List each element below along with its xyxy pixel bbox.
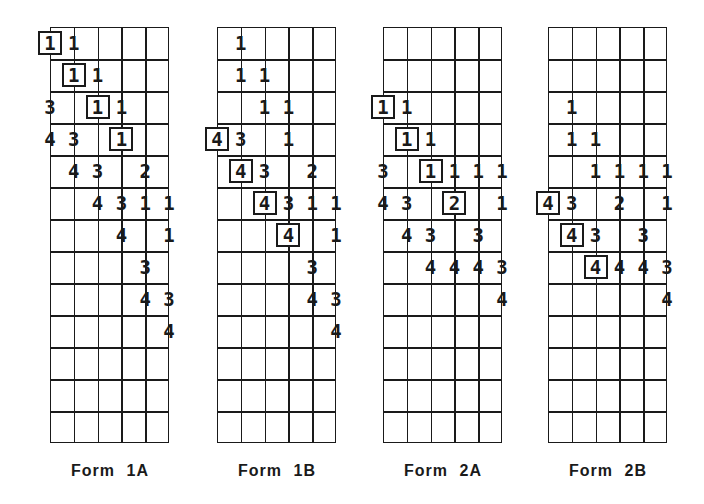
number: 4 [371,191,395,215]
number: 3 [38,95,62,119]
form-label: Form 1A [30,462,190,480]
boxed-number: 1 [395,127,419,151]
grid-row-line [549,251,666,253]
number: 3 [560,191,584,215]
boxed-number: 1 [62,63,86,87]
grid-row-line [218,379,335,381]
number: 1 [133,191,157,215]
number: 1 [324,223,348,247]
number: 1 [324,191,348,215]
grid-row-line [51,155,168,157]
number: 1 [229,31,253,55]
grid-row-line [384,155,501,157]
grid-row-line [384,283,501,285]
boxed-number: 2 [442,191,466,215]
number: 1 [419,127,443,151]
number: 4 [38,127,62,151]
number: 4 [109,223,133,247]
grid-row-line [549,155,666,157]
number: 1 [655,159,679,183]
number: 4 [419,255,443,279]
number: 3 [62,127,86,151]
grid-row-line [218,91,335,93]
number: 1 [109,95,133,119]
number: 4 [466,255,490,279]
grid-row-line [384,219,501,221]
grid-row-line [218,123,335,125]
number: 2 [607,191,631,215]
number: 3 [655,255,679,279]
boxed-number: 4 [560,223,584,247]
grid-row-line [218,347,335,349]
number: 1 [395,95,419,119]
number: 1 [560,127,584,151]
grid-row-line [384,59,501,61]
grid-row-line [218,219,335,221]
number: 1 [157,191,181,215]
grid-row-line [218,187,335,189]
grid-row-line [51,251,168,253]
number: 3 [109,191,133,215]
number: 1 [300,191,324,215]
grid-row-line [384,315,501,317]
number: 1 [490,159,514,183]
number: 3 [157,287,181,311]
number: 3 [229,127,253,151]
grid-row-line [549,219,666,221]
boxed-number: 4 [276,223,300,247]
grid-row-line [549,123,666,125]
grid-row-line [51,379,168,381]
grid-row-line [549,315,666,317]
number: 4 [300,287,324,311]
number: 1 [442,159,466,183]
grid-row-line [549,59,666,61]
number: 3 [419,223,443,247]
form-label: Form 2B [528,462,688,480]
number: 1 [86,63,110,87]
grid-row-line [384,411,501,413]
number: 1 [490,191,514,215]
grid-row-line [51,123,168,125]
number: 4 [324,319,348,343]
grid-row-line [218,251,335,253]
number: 1 [631,159,655,183]
form-label: Form 1B [197,462,357,480]
number: 3 [253,159,277,183]
grid-row-line [384,123,501,125]
grid-row-line [51,315,168,317]
number: 1 [276,95,300,119]
number: 4 [62,159,86,183]
grid-row-line [218,315,335,317]
number: 4 [86,191,110,215]
grid-row-line [549,187,666,189]
boxed-number: 1 [38,31,62,55]
number: 1 [584,127,608,151]
boxed-number: 4 [205,127,229,151]
number: 1 [560,95,584,119]
grid-row-line [51,91,168,93]
number: 4 [655,287,679,311]
grid-row-line [384,379,501,381]
grid-row-line [384,251,501,253]
number: 3 [395,191,419,215]
number: 3 [371,159,395,183]
grid-row-line [384,91,501,93]
form-label: Form 2A [363,462,523,480]
number: 2 [300,159,324,183]
number: 3 [490,255,514,279]
grid-row-line [51,411,168,413]
number: 4 [607,255,631,279]
grid-row-line [51,187,168,189]
boxed-number: 1 [419,159,443,183]
number: 3 [584,223,608,247]
grid-row-line [218,411,335,413]
grid-row-line [218,59,335,61]
grid-row-line [51,283,168,285]
grid-row-line [51,347,168,349]
boxed-number: 1 [371,95,395,119]
number: 1 [276,127,300,151]
number: 1 [607,159,631,183]
number: 4 [631,255,655,279]
number: 4 [395,223,419,247]
boxed-number: 1 [86,95,110,119]
